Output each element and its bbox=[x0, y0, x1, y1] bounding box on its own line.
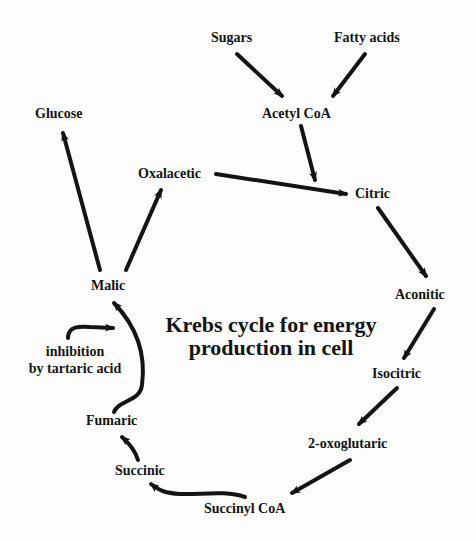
arrow-malic-to-glucose bbox=[63, 133, 100, 270]
node-glucose: Glucose bbox=[35, 106, 82, 122]
node-citric: Citric bbox=[355, 186, 390, 202]
node-malic: Malic bbox=[91, 278, 125, 294]
node-fumaric: Fumaric bbox=[86, 413, 137, 429]
arrow-acetyl-coa-to-citric bbox=[301, 126, 315, 180]
arrow-inhibition bbox=[68, 327, 113, 338]
node-succinic: Succinic bbox=[115, 463, 165, 479]
krebs-cycle-diagram: Sugars Fatty acids Acetyl CoA Glucose Ox… bbox=[0, 0, 476, 541]
node-succinyl-coa: Succinyl CoA bbox=[204, 501, 285, 517]
node-oxalacetic: Oxalacetic bbox=[138, 166, 201, 182]
annotation-tartaric-acid: by tartaric acid bbox=[18, 360, 132, 377]
node-fatty-acids: Fatty acids bbox=[334, 30, 400, 46]
arrow-malic-to-oxalacetic bbox=[126, 190, 161, 270]
arrow-oxoglutaric-to-succinyl-coa bbox=[292, 460, 350, 493]
arrow-aconitic-to-isocitric bbox=[404, 309, 434, 358]
arrow-succinic-to-fumaric bbox=[122, 437, 138, 460]
arrow-oxalacetic-to-citric bbox=[216, 174, 346, 194]
diagram-title-line-2: production in cell bbox=[158, 336, 384, 359]
arrow-citric-to-aconitic bbox=[378, 208, 426, 276]
node-isocitric: Isocitric bbox=[372, 366, 421, 382]
diagram-title-line-1: Krebs cycle for energy bbox=[158, 313, 384, 336]
arrow-isocitric-to-oxoglutaric bbox=[359, 388, 397, 424]
node-aconitic: Aconitic bbox=[395, 287, 445, 303]
arrow-succinyl-coa-to-succinic bbox=[151, 484, 245, 497]
node-2-oxoglutaric: 2-oxoglutaric bbox=[308, 436, 387, 452]
node-sugars: Sugars bbox=[211, 30, 252, 46]
arrows-layer bbox=[0, 0, 476, 541]
arrow-fatty-acids-to-acetyl-coa bbox=[333, 54, 365, 96]
arrow-sugars-to-acetyl-coa bbox=[237, 54, 282, 96]
annotation-inhibition: inhibition bbox=[18, 343, 132, 360]
node-acetyl-coa: Acetyl CoA bbox=[262, 106, 331, 122]
